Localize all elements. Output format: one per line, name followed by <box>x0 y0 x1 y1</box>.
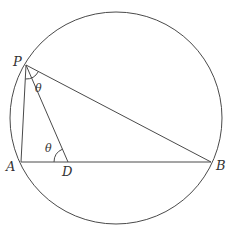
label-D: D <box>61 164 73 179</box>
segment-PB <box>26 65 211 162</box>
segment-PA <box>21 65 26 162</box>
theta-label-P: θ <box>35 82 42 95</box>
theta-label-D: θ <box>45 142 52 155</box>
angle-arc-D <box>54 149 62 162</box>
angle-arc-P <box>25 72 38 80</box>
label-P: P <box>12 54 22 69</box>
circumcircle <box>10 12 222 224</box>
label-A: A <box>5 159 15 174</box>
geometry-diagram: P A D B θ θ <box>0 0 230 241</box>
label-B: B <box>215 158 226 173</box>
